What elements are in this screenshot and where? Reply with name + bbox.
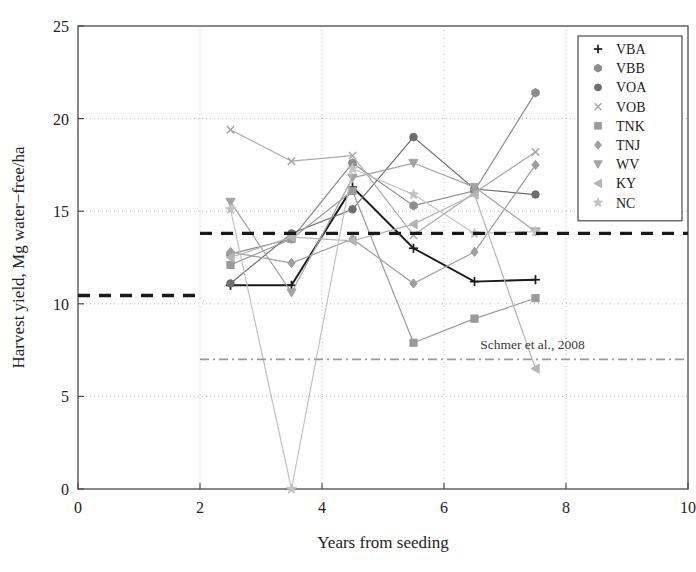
marker-diamond bbox=[288, 258, 295, 267]
legend-label-VOB: VOB bbox=[616, 100, 646, 115]
legend-label-VOA: VOA bbox=[616, 80, 647, 95]
marker-square bbox=[471, 315, 478, 322]
marker-square bbox=[410, 339, 417, 346]
legend-label-TNK: TNK bbox=[616, 119, 645, 134]
tick-label-y: 15 bbox=[53, 203, 69, 220]
tick-label-y: 10 bbox=[53, 296, 69, 313]
marker-square bbox=[595, 123, 602, 130]
marker-square bbox=[227, 261, 234, 268]
legend: VBAVBBVOAVOBTNKTNJWVKYNC bbox=[578, 36, 682, 221]
marker-triangle-left bbox=[531, 364, 539, 373]
marker-diamond bbox=[410, 279, 417, 288]
tick-label-x: 8 bbox=[562, 499, 570, 516]
annotations: Schmer et al., 2008 bbox=[480, 337, 585, 352]
marker-star bbox=[287, 484, 297, 493]
tick-label-y: 0 bbox=[61, 481, 69, 498]
marker-hexagon bbox=[595, 64, 602, 72]
series-NC bbox=[226, 163, 541, 493]
tick-label-x: 0 bbox=[74, 499, 82, 516]
marker-square bbox=[532, 295, 539, 302]
series-VOB bbox=[227, 126, 539, 239]
marker-circle bbox=[227, 280, 235, 288]
data-series bbox=[226, 88, 541, 493]
tick-label-x: 6 bbox=[440, 499, 448, 516]
tick-label-x: 4 bbox=[318, 499, 326, 516]
legend-label-VBB: VBB bbox=[616, 61, 645, 76]
marker-circle bbox=[410, 133, 418, 141]
legend-label-WV: WV bbox=[616, 157, 639, 172]
marker-cross bbox=[227, 126, 234, 133]
series-TNJ bbox=[227, 160, 539, 288]
chart-svg: 02468100510152025 Schmer et al., 2008 VB… bbox=[0, 0, 696, 572]
tick-label-y: 5 bbox=[61, 388, 69, 405]
reference-lines bbox=[78, 233, 688, 359]
marker-square bbox=[349, 187, 356, 194]
figure-container: 02468100510152025 Schmer et al., 2008 VB… bbox=[0, 0, 696, 572]
legend-label-VBA: VBA bbox=[616, 42, 646, 57]
marker-circle bbox=[595, 84, 602, 91]
marker-hexagon bbox=[532, 88, 539, 96]
marker-circle bbox=[532, 191, 540, 199]
y-axis-label: Harvest yield, Mg water−free/ha bbox=[9, 146, 28, 368]
tick-label-x: 2 bbox=[196, 499, 204, 516]
tick-label-y: 20 bbox=[53, 111, 69, 128]
marker-hexagon bbox=[410, 201, 417, 209]
tick-label-x: 10 bbox=[680, 499, 696, 516]
legend-label-KY: KY bbox=[616, 176, 636, 191]
legend-label-NC: NC bbox=[616, 196, 635, 211]
marker-triangle-down bbox=[348, 174, 357, 182]
x-axis-label: Years from seeding bbox=[317, 533, 449, 552]
marker-plus bbox=[531, 275, 540, 284]
marker-plus bbox=[470, 277, 479, 286]
series-VOA bbox=[227, 133, 540, 287]
series-line bbox=[231, 130, 536, 236]
marker-cross bbox=[532, 148, 539, 155]
series-line bbox=[231, 191, 536, 343]
schmer-annotation: Schmer et al., 2008 bbox=[480, 337, 585, 352]
legend-label-TNJ: TNJ bbox=[616, 138, 641, 153]
marker-triangle-left bbox=[409, 220, 417, 229]
marker-circle bbox=[349, 206, 357, 214]
tick-label-y: 25 bbox=[53, 18, 69, 35]
series-VBA bbox=[226, 183, 540, 290]
marker-triangle-down bbox=[287, 289, 296, 297]
